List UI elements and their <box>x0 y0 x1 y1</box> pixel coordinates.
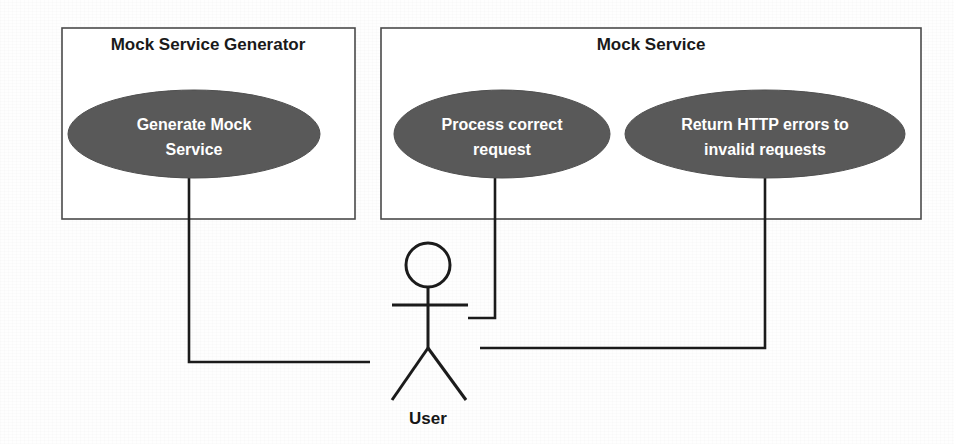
use-case-return-http-errors[interactable]: Return HTTP errors to invalid requests <box>625 90 905 178</box>
use-case-process-correct-request[interactable]: Process correct request <box>394 90 610 178</box>
diagram-svg: Mock Service Generator Mock Service Gene… <box>0 0 954 444</box>
use-case-label-line-1: Return HTTP errors to <box>681 116 849 133</box>
boundary-title-mock-service-generator: Mock Service Generator <box>111 35 306 54</box>
actor-user[interactable]: User <box>392 243 468 428</box>
use-case-ellipse <box>625 90 905 178</box>
use-case-ellipse <box>68 90 320 178</box>
use-case-label-line-1: Generate Mock <box>137 116 252 133</box>
actor-head-icon <box>406 243 450 287</box>
boundary-title-mock-service: Mock Service <box>597 35 706 54</box>
use-case-label-line-2: request <box>473 141 531 158</box>
actor-label-user: User <box>409 409 447 428</box>
actor-leg-right <box>428 348 466 400</box>
use-case-ellipse <box>394 90 610 178</box>
use-case-generate-mock-service[interactable]: Generate Mock Service <box>68 90 320 178</box>
actor-leg-left <box>392 348 428 400</box>
use-case-label-line-1: Process correct <box>442 116 564 133</box>
use-case-label-line-2: Service <box>166 141 223 158</box>
use-case-diagram-canvas: Mock Service Generator Mock Service Gene… <box>0 0 954 444</box>
use-case-label-line-2: invalid requests <box>704 141 826 158</box>
